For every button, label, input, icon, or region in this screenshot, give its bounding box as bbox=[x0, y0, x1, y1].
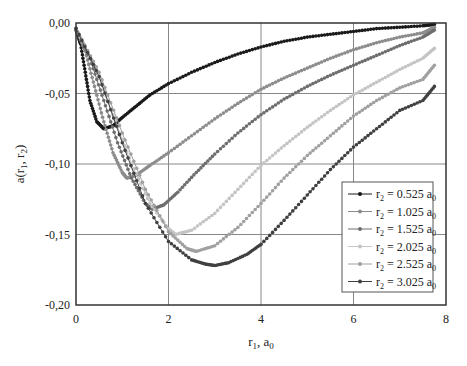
y-tick-label: 0,00 bbox=[49, 16, 70, 30]
x-axis-label: r1, a0 bbox=[248, 334, 274, 351]
legend-marker-icon bbox=[358, 262, 362, 266]
legend-label: r2 = 2.025 a0 bbox=[376, 240, 436, 256]
y-tick-label: -0,10 bbox=[45, 157, 70, 171]
y-tick-label: -0,15 bbox=[45, 228, 70, 242]
legend-marker-icon bbox=[358, 192, 362, 196]
series-1 bbox=[74, 23, 436, 131]
y-tick-label: -0,20 bbox=[45, 298, 70, 312]
y-tick-label: -0,05 bbox=[45, 87, 70, 101]
legend-label: r2 = 3.025 a0 bbox=[376, 275, 436, 291]
x-tick-label: 8 bbox=[443, 312, 449, 326]
x-axis-ticks: 02468 bbox=[73, 312, 449, 326]
legend-label: r2 = 2.525 a0 bbox=[376, 257, 436, 273]
legend-label: r2 = 1.525 a0 bbox=[376, 222, 436, 238]
x-tick-label: 6 bbox=[351, 312, 357, 326]
line-chart: 02468 0,00-0,05-0,10-0,15-0,20 r1, a0 a(… bbox=[0, 0, 467, 366]
x-tick-label: 2 bbox=[166, 312, 172, 326]
y-axis-label: a(r1, r2) bbox=[12, 145, 29, 184]
legend-marker-icon bbox=[358, 280, 362, 284]
legend-label: r2 = 1.025 a0 bbox=[376, 205, 436, 221]
y-axis-ticks: 0,00-0,05-0,10-0,15-0,20 bbox=[45, 16, 70, 312]
x-tick-label: 4 bbox=[258, 312, 264, 326]
legend-marker-icon bbox=[358, 210, 362, 214]
legend-label: r2 = 0.525 a0 bbox=[376, 187, 436, 203]
x-tick-label: 0 bbox=[73, 312, 79, 326]
legend-marker-icon bbox=[358, 245, 362, 249]
legend: r2 = 0.525 a0r2 = 1.025 a0r2 = 1.525 a0r… bbox=[342, 182, 436, 292]
legend-marker-icon bbox=[358, 227, 362, 231]
